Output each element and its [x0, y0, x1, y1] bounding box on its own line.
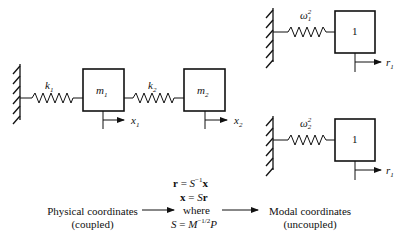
- spring-omega2-label: ω22: [300, 117, 311, 131]
- equation-x-equals: x = Sr: [180, 192, 208, 203]
- spring-k1-label: k1: [45, 80, 53, 91]
- physical-coordinates-caption: Physical coordinates (coupled): [45, 205, 140, 231]
- mass-modal-1-label: 1: [352, 26, 358, 37]
- physical-coordinates-title: Physical coordinates: [45, 205, 140, 218]
- where-label: where: [183, 205, 210, 216]
- displacement-arrow-x1: [103, 111, 124, 129]
- equation-s-equals: S = M−1/2P: [171, 219, 217, 230]
- equation-r-equals: r = S−1x: [173, 178, 208, 189]
- spring-omega1-label: ω21: [300, 9, 311, 23]
- displacement-arrow-r2: [355, 161, 381, 180]
- modal-coordinates-title: Modal coordinates: [261, 205, 359, 218]
- modal-coordinates-note: (uncoupled): [261, 218, 359, 231]
- displacement-arrow-r1: [355, 53, 381, 72]
- mass-m1-label: m1: [96, 85, 107, 96]
- wall-left: [13, 64, 20, 124]
- spring-k2-label: k2: [148, 80, 156, 91]
- displacement-r1-label: r1: [386, 57, 394, 68]
- spring-k1: [20, 93, 83, 103]
- displacement-r2-label: r1: [386, 165, 394, 176]
- spring-omega1: [273, 27, 335, 37]
- displacement-arrow-x2: [205, 111, 227, 129]
- spring-omega2: [273, 135, 335, 145]
- wall-modal-1: [266, 8, 273, 68]
- wall-modal-2: [266, 116, 273, 176]
- mass-m2-label: m2: [197, 85, 208, 96]
- spring-k2: [124, 93, 184, 103]
- physical-coordinates-note: (coupled): [45, 218, 140, 231]
- displacement-x1-label: x1: [131, 115, 139, 126]
- displacement-x2-label: x2: [234, 115, 242, 126]
- mass-modal-2-label: 1: [352, 134, 358, 145]
- modal-coordinates-caption: Modal coordinates (uncoupled): [261, 205, 359, 231]
